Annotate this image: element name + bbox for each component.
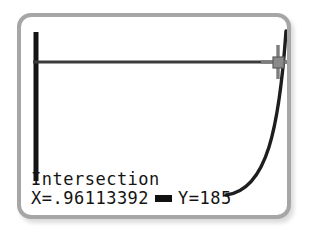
readout-title: Intersection (31, 171, 287, 188)
value-separator-block-icon (155, 195, 172, 202)
intersection-readout: Intersection X=.96113392 Y=185 (31, 171, 287, 207)
readout-y-value: Y=185 (178, 190, 232, 207)
readout-values-row: X=.96113392 Y=185 (31, 190, 287, 207)
graphing-calculator-screen: Intersection X=.96113392 Y=185 (17, 13, 291, 219)
readout-x-value: X=.96113392 (31, 190, 149, 207)
